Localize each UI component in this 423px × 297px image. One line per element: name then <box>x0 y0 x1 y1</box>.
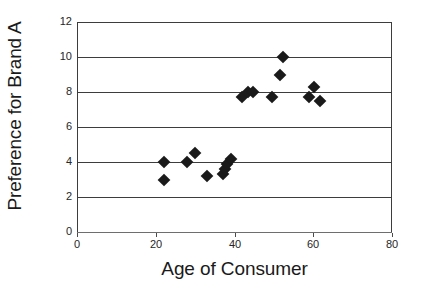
y-tick-label: 0 <box>46 226 72 237</box>
gridline <box>77 197 392 198</box>
x-tick-label: 60 <box>298 239 328 250</box>
y-tick-label: 10 <box>46 51 72 62</box>
x-tick-mark <box>156 233 157 237</box>
x-tick-label: 0 <box>62 239 92 250</box>
gridline <box>77 22 392 23</box>
scatter-chart: Preference for Brand A 024681012 0204060… <box>0 0 423 297</box>
x-tick-mark <box>235 233 236 237</box>
x-axis-title: Age of Consumer <box>77 258 392 280</box>
gridline <box>77 57 392 58</box>
y-tick-label: 12 <box>46 16 72 27</box>
gridline <box>77 92 392 93</box>
data-points-layer <box>0 0 423 297</box>
gridline <box>77 127 392 128</box>
y-tick-label: 8 <box>46 86 72 97</box>
x-tick-mark <box>392 233 393 237</box>
gridline <box>77 162 392 163</box>
data-point <box>221 157 234 170</box>
x-tick-label: 40 <box>220 239 250 250</box>
x-tick-mark <box>77 233 78 237</box>
data-point <box>189 147 202 160</box>
y-tick-label: 2 <box>46 191 72 202</box>
x-tick-mark <box>313 233 314 237</box>
data-point <box>274 68 287 81</box>
x-tick-label: 20 <box>141 239 171 250</box>
x-tick-label: 80 <box>377 239 407 250</box>
y-tick-label: 6 <box>46 121 72 132</box>
data-point <box>219 163 232 176</box>
data-point <box>216 168 229 181</box>
y-tick-label: 4 <box>46 156 72 167</box>
data-point <box>201 170 214 183</box>
data-point <box>313 94 326 107</box>
y-axis-title: Preference for Brand A <box>0 0 30 232</box>
data-point <box>157 173 170 186</box>
